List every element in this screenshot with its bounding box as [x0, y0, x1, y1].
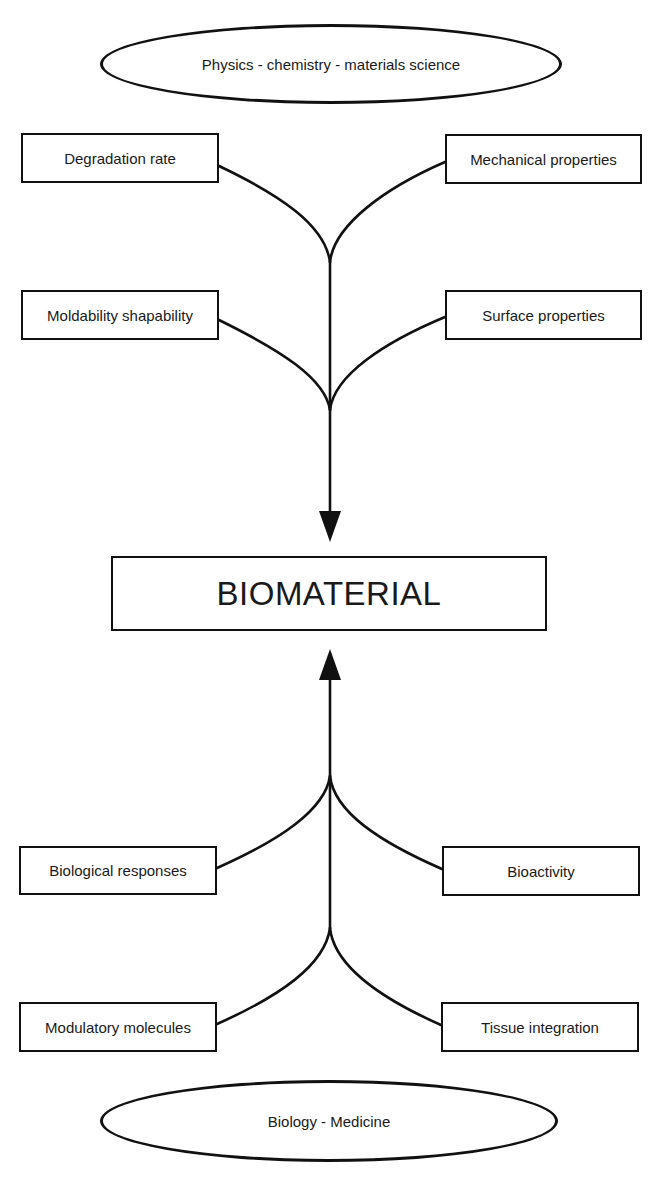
factor-label: Surface properties [482, 307, 605, 324]
domain-physics-chemistry: Physics - chemistry - materials science [100, 24, 562, 104]
connector-tissue-integration [330, 928, 441, 1025]
arrow-down-icon [319, 511, 341, 542]
factor-biological-responses: Biological responses [19, 846, 217, 895]
factor-degradation-rate: Degradation rate [21, 133, 219, 183]
biomaterial-label: BIOMATERIAL [217, 575, 442, 613]
factor-moldability-shapability: Moldability shapability [21, 290, 219, 340]
connector-bioactivity [330, 776, 442, 869]
factor-label: Mechanical properties [470, 151, 617, 168]
factor-label: Tissue integration [481, 1019, 599, 1036]
factor-label: Bioactivity [507, 863, 575, 880]
factor-tissue-integration: Tissue integration [441, 1002, 639, 1052]
factor-label: Degradation rate [64, 150, 176, 167]
connector-biological-responses [217, 776, 330, 868]
domain-physics-label: Physics - chemistry - materials science [202, 56, 460, 73]
factor-modulatory-molecules: Modulatory molecules [19, 1002, 217, 1052]
factor-mechanical-properties: Mechanical properties [445, 134, 642, 184]
factor-surface-properties: Surface properties [445, 290, 642, 340]
connector-degradation-rate [219, 166, 330, 262]
connector-mechanical-properties [330, 162, 445, 262]
biomaterial-box: BIOMATERIAL [111, 556, 547, 631]
connector-moldability [219, 320, 330, 410]
factor-label: Biological responses [49, 862, 187, 879]
domain-biology-label: Biology - Medicine [268, 1113, 391, 1130]
domain-biology-medicine: Biology - Medicine [100, 1080, 558, 1162]
factor-label: Moldability shapability [47, 307, 193, 324]
arrow-up-icon [319, 649, 341, 680]
factor-bioactivity: Bioactivity [442, 846, 640, 896]
connector-surface-properties [330, 317, 445, 410]
factor-label: Modulatory molecules [45, 1019, 191, 1036]
connector-modulatory-molecules [217, 928, 330, 1024]
